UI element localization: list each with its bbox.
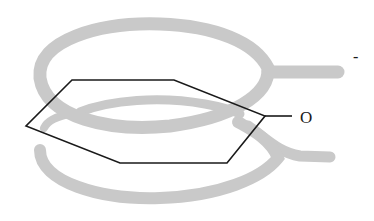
negative-charge-label: - bbox=[353, 49, 358, 65]
orbital-diagram-canvas bbox=[0, 0, 374, 221]
oxygen-atom-label: O bbox=[300, 109, 312, 126]
